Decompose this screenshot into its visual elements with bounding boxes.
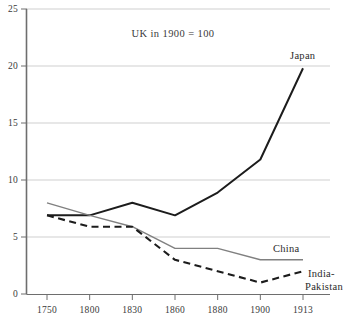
series-label-japan: Japan (290, 50, 316, 61)
x-tick-label-1830: 1830 (122, 305, 142, 315)
x-tick-label-1880: 1880 (208, 305, 228, 315)
series-label-china: China (273, 243, 300, 254)
x-tick-label-1860: 1860 (165, 305, 185, 315)
y-tick-label-20: 20 (8, 61, 18, 71)
x-tick-label-1800: 1800 (80, 305, 100, 315)
y-tick-label-25: 25 (8, 4, 18, 14)
y-tick-label-0: 0 (13, 289, 18, 299)
x-tick-label-1900: 1900 (250, 305, 270, 315)
y-tick-label-10: 10 (8, 175, 18, 185)
series-label-india-pakistan-line1: India- (308, 268, 335, 279)
x-tick-label-1913: 1913 (293, 305, 313, 315)
chart-annotation: UK in 1900 = 100 (132, 28, 215, 39)
y-tick-label-5: 5 (13, 232, 18, 242)
chart-background (0, 0, 347, 320)
x-tick-label-1750: 1750 (37, 305, 57, 315)
line-chart: 0510152025 1750180018301860188019001913 … (0, 0, 347, 320)
y-tick-label-15: 15 (8, 118, 18, 128)
series-label-india-pakistan-line2: Pakistan (305, 281, 343, 292)
chart-container: 0510152025 1750180018301860188019001913 … (0, 0, 347, 320)
